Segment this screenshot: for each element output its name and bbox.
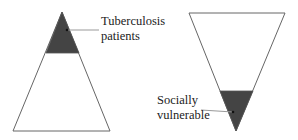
- left-label-line2: patients: [101, 29, 140, 43]
- left-leader-dot: [66, 29, 69, 32]
- right-pyramid: Socially vulnerable: [157, 13, 285, 131]
- right-label-line2: vulnerable: [157, 108, 210, 122]
- left-label-line1: Tuberculosis: [101, 14, 165, 28]
- diagram-canvas: Tuberculosis patients Socially vulnerabl…: [0, 0, 298, 140]
- left-pyramid: Tuberculosis patients: [13, 12, 165, 131]
- right-label-line1: Socially: [157, 93, 199, 107]
- left-pyramid-shaded-top: [46, 12, 79, 53]
- right-leader-dot: [232, 111, 235, 114]
